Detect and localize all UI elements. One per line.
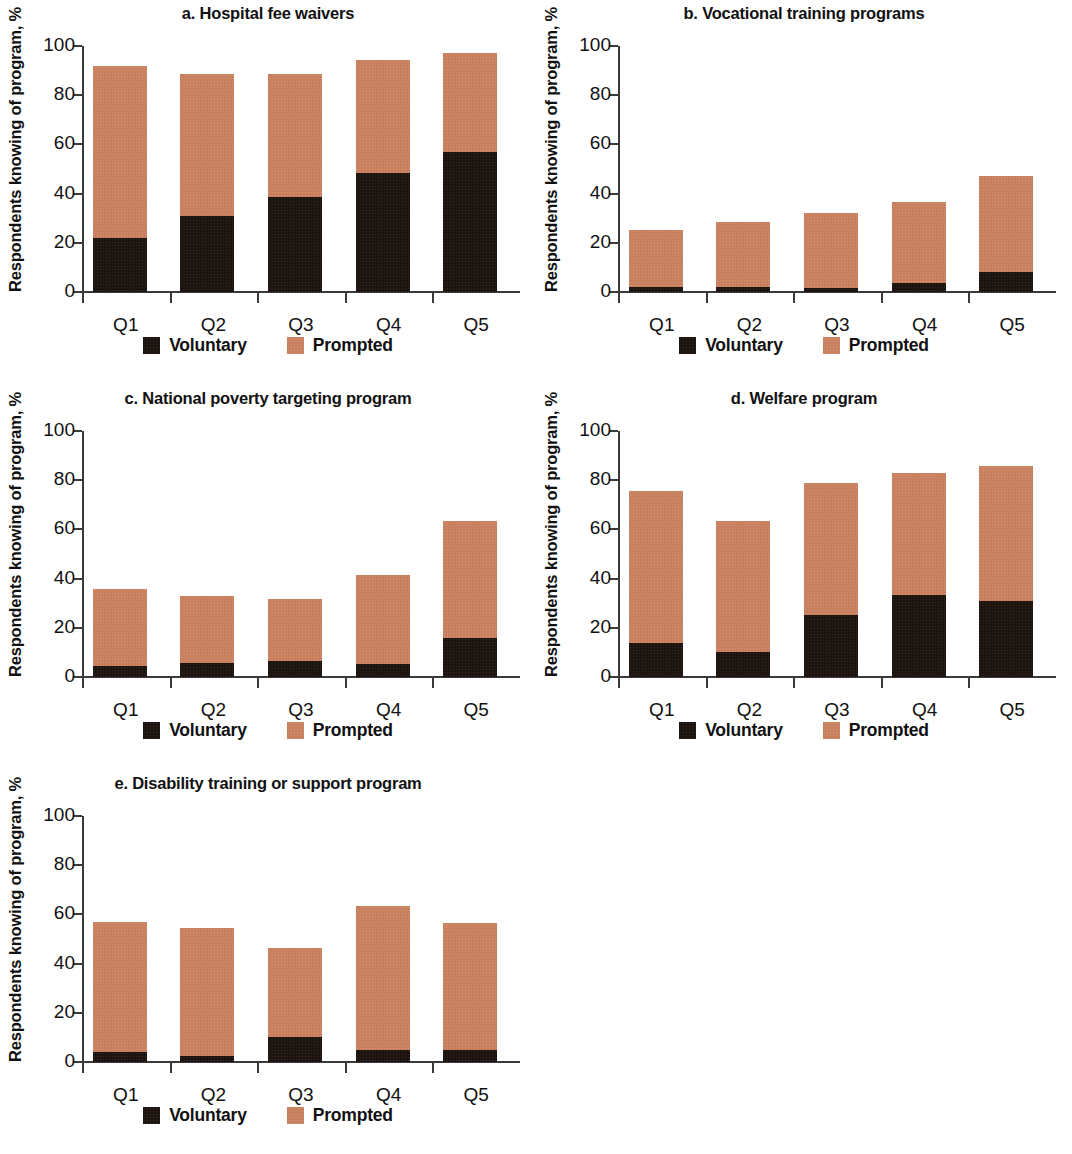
bar-segment-prompted [629,230,683,287]
bar-segment-voluntary [443,638,497,677]
bar-segment-voluntary [180,1056,234,1062]
bar-segment-prompted [180,928,234,1055]
legend-label-voluntary: Voluntary [169,335,247,356]
bar-segment-prompted [443,521,497,638]
bar-segment-voluntary [804,288,858,292]
stacked-bar [180,596,234,677]
legend-label-prompted: Prompted [849,335,929,356]
x-axis-tick-label: Q4 [359,1084,419,1106]
y-axis-tick-label: 40 [590,182,611,204]
bar-segment-voluntary [716,287,770,292]
x-axis-tick [345,292,347,303]
y-axis-label: Respondents knowing of program, % [6,816,28,1062]
panel-a: a. Hospital fee waiversRespondents knowi… [0,0,536,385]
y-axis-label: Respondents knowing of program, % [542,431,564,677]
bar-segment-prompted [180,74,234,216]
legend-item-prompted: Prompted [287,335,393,356]
y-axis-tick-label: 0 [64,665,75,687]
y-axis-label: Respondents knowing of program, % [542,46,564,292]
y-axis-tick-label: 80 [54,853,75,875]
y-axis-line [82,46,84,293]
bar-segment-prompted [268,948,322,1038]
y-axis-tick-label: 20 [54,231,75,253]
stacked-bar [892,473,946,677]
x-axis-tick [881,292,883,303]
x-axis-tick [618,677,620,688]
y-axis-tick-label: 40 [54,952,75,974]
x-axis-tick-label: Q4 [895,699,955,721]
stacked-bar [93,922,147,1062]
x-axis-tick-label: Q1 [632,699,692,721]
x-axis-tick-label: Q3 [271,314,331,336]
y-axis-tick-label: 0 [600,280,611,302]
x-axis-tick-label: Q2 [719,314,779,336]
legend-swatch-voluntary-icon [143,337,160,354]
x-axis-tick [881,677,883,688]
stacked-bar [356,575,410,677]
x-axis-tick-label: Q2 [183,699,243,721]
y-axis-tick-label: 100 [579,34,611,56]
x-axis-tick [345,677,347,688]
bar-segment-voluntary [892,283,946,292]
legend-label-prompted: Prompted [313,1105,393,1126]
x-axis-tick-label: Q4 [895,314,955,336]
stacked-bar [356,906,410,1062]
plot-area: 020406080100Q1Q2Q3Q4Q5 [82,816,520,1062]
bar-segment-prompted [356,60,410,172]
bar-segment-prompted [268,74,322,197]
x-axis-tick-label: Q1 [96,1084,156,1106]
bar-segment-prompted [629,491,683,643]
x-axis-tick-label: Q2 [183,314,243,336]
y-axis-tick-label: 60 [54,132,75,154]
panel-title: c. National poverty targeting program [0,389,536,408]
bar-segment-voluntary [629,643,683,677]
bar-segment-prompted [979,466,1033,601]
x-axis-tick [968,677,970,688]
stacked-bar [629,491,683,677]
bar-segment-prompted [716,521,770,652]
y-axis-line [618,431,620,678]
legend-label-voluntary: Voluntary [169,720,247,741]
y-axis-tick-label: 80 [54,83,75,105]
bar-segment-voluntary [180,663,234,677]
x-axis-tick [432,292,434,303]
legend-swatch-voluntary-icon [679,722,696,739]
x-axis-tick-label: Q3 [807,314,867,336]
stacked-bar [180,74,234,292]
legend-item-prompted: Prompted [823,335,929,356]
x-axis-tick [793,677,795,688]
bar-segment-prompted [892,473,946,595]
stacked-bar [443,923,497,1062]
legend: VoluntaryPrompted [0,1105,536,1126]
plot-area: 020406080100Q1Q2Q3Q4Q5 [618,431,1056,677]
x-axis-tick-label: Q5 [982,699,1042,721]
y-axis-label: Respondents knowing of program, % [6,431,28,677]
legend-item-prompted: Prompted [287,1105,393,1126]
x-axis-tick-label: Q5 [982,314,1042,336]
x-axis-tick [706,292,708,303]
stacked-bar-chart-figure: a. Hospital fee waiversRespondents knowi… [0,0,1072,1154]
panel-e: e. Disability training or support progra… [0,770,536,1154]
bar-segment-voluntary [268,1037,322,1062]
legend-swatch-prompted-icon [287,337,304,354]
y-axis-tick-label: 20 [590,231,611,253]
stacked-bar [93,589,147,677]
bar-segment-voluntary [629,287,683,292]
y-axis-label: Respondents knowing of program, % [6,46,28,292]
bar-segment-voluntary [93,1052,147,1062]
panel-c: c. National poverty targeting programRes… [0,385,536,770]
x-axis-tick [257,292,259,303]
bar-segment-voluntary [356,173,410,292]
legend-swatch-prompted-icon [287,722,304,739]
x-axis-tick-label: Q5 [446,314,506,336]
legend-item-prompted: Prompted [287,720,393,741]
y-axis-line [82,816,84,1063]
x-axis-tick-label: Q1 [96,314,156,336]
stacked-bar [180,928,234,1062]
y-axis-tick-label: 0 [64,280,75,302]
legend: VoluntaryPrompted [0,335,536,356]
panel-d: d. Welfare programRespondents knowing of… [536,385,1072,770]
panel-title: a. Hospital fee waivers [0,4,536,23]
panel-title: d. Welfare program [536,389,1072,408]
legend-label-prompted: Prompted [849,720,929,741]
